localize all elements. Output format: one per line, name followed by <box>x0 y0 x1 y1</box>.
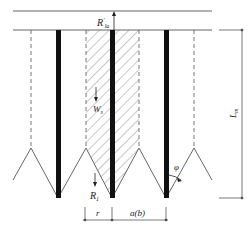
pile-center <box>110 30 115 198</box>
pile-right <box>164 30 169 198</box>
top-reaction-label: R′la <box>96 16 109 29</box>
top-reaction-arrow-icon <box>112 11 116 30</box>
pile-soil-diagram: R′la Ws R1 φ Lm r a(b) <box>0 0 251 235</box>
pile-left <box>56 30 61 198</box>
angle-label: φ <box>174 162 179 172</box>
pile-reaction-arrow-icon <box>93 173 97 187</box>
radius-label: r <box>96 208 100 218</box>
length-label: Lm <box>228 108 239 119</box>
pile-reaction-label: R1 <box>89 190 99 202</box>
angle-arc <box>169 175 181 180</box>
spacing-label: a(b) <box>130 208 145 218</box>
